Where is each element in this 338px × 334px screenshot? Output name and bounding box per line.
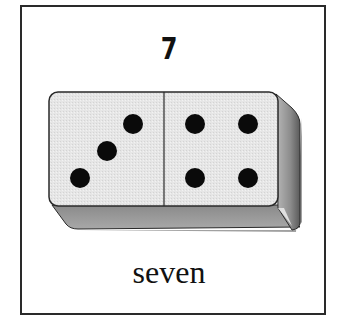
domino-bottom-edge	[52, 205, 300, 229]
pip-icon	[70, 168, 90, 188]
pip-icon	[185, 114, 205, 134]
pip-icon	[185, 168, 205, 188]
pip-icon	[123, 114, 143, 134]
pip-icon	[238, 168, 258, 188]
pip-icon	[97, 141, 117, 161]
number-word: seven	[0, 254, 338, 291]
pip-icon	[238, 114, 258, 134]
